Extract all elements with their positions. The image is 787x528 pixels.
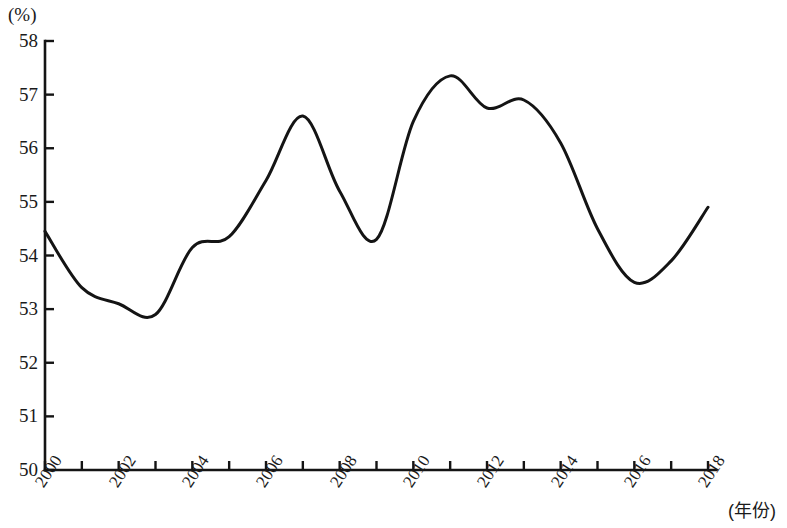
x-axis-tick-label: 2014 [547,452,583,491]
chart-container: (%) 585756555453525150 20002002200420062… [0,0,787,528]
x-axis-tick-labels: 2000200220042006200820102012201420162018 [0,0,787,528]
x-axis-tick-label: 2002 [105,452,141,491]
x-axis-tick-label: 2016 [620,452,656,491]
x-axis-tick-label: 2010 [399,452,435,491]
x-axis-caption: (年份) [728,496,776,522]
x-axis-tick-label: 2012 [473,452,509,491]
x-axis-tick-label: 2004 [178,452,214,491]
x-axis-tick-label: 2000 [31,452,67,491]
x-axis-tick-label: 2008 [326,452,362,491]
x-axis-tick-label: 2018 [694,452,730,491]
x-axis-tick-label: 2006 [252,452,288,491]
